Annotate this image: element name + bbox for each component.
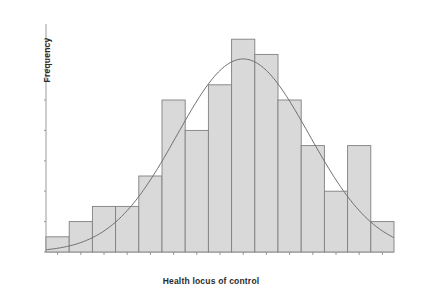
histogram-bar (139, 176, 162, 252)
x-tick-label: 12 (332, 257, 340, 258)
x-tick-label: 8 (241, 257, 245, 258)
histogram-bar (255, 54, 278, 252)
histogram-bar (185, 130, 208, 252)
histogram-bar (232, 39, 255, 252)
x-tick-label: 3 (125, 257, 129, 258)
y-axis-label: Frequency (42, 0, 52, 120)
histogram-figure: 02468101214 01234567891011121314 Frequen… (0, 0, 422, 296)
histogram-svg: 02468101214 01234567891011121314 (44, 24, 396, 258)
histogram-bar (92, 206, 115, 252)
x-tick-group: 01234567891011121314 (56, 252, 387, 258)
x-tick-label: 7 (218, 257, 222, 258)
x-tick-label: 9 (265, 257, 269, 258)
x-tick-label: 13 (356, 257, 364, 258)
histogram-bar (324, 191, 347, 252)
histogram-bar (116, 206, 139, 252)
histogram-bar (278, 100, 301, 252)
plot-area: 02468101214 01234567891011121314 Frequen… (44, 24, 396, 258)
x-tick-label: 11 (309, 257, 316, 258)
histogram-bar (348, 146, 371, 252)
x-tick-label: 10 (286, 257, 294, 258)
histogram-bar (371, 222, 394, 252)
x-tick-label: 4 (149, 257, 153, 258)
x-tick-label: 0 (56, 257, 60, 258)
histogram-bar (162, 100, 185, 252)
x-tick-label: 2 (102, 257, 106, 258)
histogram-bar (69, 222, 92, 252)
histogram-bar (301, 146, 324, 252)
x-tick-label: 5 (172, 257, 176, 258)
x-tick-label: 14 (379, 257, 387, 258)
x-tick-label: 1 (79, 257, 83, 258)
x-axis-label: Health locus of control (0, 276, 422, 286)
histogram-bar (208, 85, 231, 252)
x-tick-label: 6 (195, 257, 199, 258)
